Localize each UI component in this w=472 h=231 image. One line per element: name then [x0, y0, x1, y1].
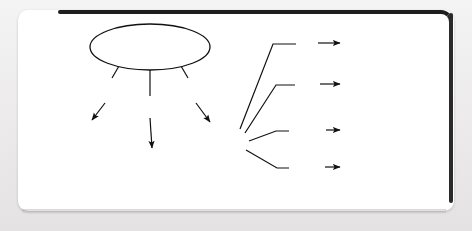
edge-atmosphere-to-life [150, 70, 152, 148]
node-earths-atmosphere-shape [90, 24, 210, 70]
concept-map [0, 0, 472, 231]
edge-layers-to-mesosphere [245, 84, 340, 133]
node-earths-atmosphere[interactable] [90, 24, 210, 70]
edge-layers-to-thermosphere [240, 43, 340, 129]
edge-atmosphere-to-layers [181, 66, 210, 122]
edge-atmosphere-to-energy [92, 66, 119, 120]
edge-layers-to-troposphere [246, 150, 340, 168]
notebook-screenshot [0, 0, 472, 231]
edge-layers-to-stratosphere [249, 130, 340, 141]
